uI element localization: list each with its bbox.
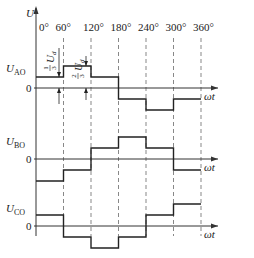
svg-text:Ud: Ud [44,51,58,63]
svg-text:2: 2 [70,74,78,78]
waveform-label-bo: UBO [6,135,25,150]
angle-tick-label: 360° [193,21,214,33]
svg-text:1: 1 [42,66,50,70]
angle-tick-label: 0° [39,21,49,33]
arrow-head-icon [57,88,61,93]
amplitude-annotations: 13Ud23Ud [42,48,88,104]
angle-tick-label: 240° [138,21,159,33]
svg-text:3: 3 [50,66,58,70]
omega-t-label: ωt [204,161,216,173]
vertical-axis-arrow-icon [34,6,39,14]
one-third-ud-label: 13Ud [42,51,58,71]
labels: U 0°60°120°180°240°300°360°0ωt0ωt0ωtUAOU… [6,7,216,240]
arrow-head-icon [57,72,61,77]
two-thirds-ud-label: 23Ud [70,59,86,79]
omega-t-label: ωt [204,90,216,102]
angle-tick-label: 180° [111,21,132,33]
angle-tick-label: 120° [83,21,104,33]
svg-text:3: 3 [78,74,86,78]
angle-tick-label: 60° [56,21,71,33]
omega-t-label: ωt [204,228,216,240]
zero-label: 0 [26,153,32,165]
zero-label: 0 [26,220,32,232]
waveform-label-ao: UAO [6,62,26,77]
svg-text:Ud: Ud [72,59,86,71]
waveform-label-co: UCO [6,202,25,217]
vertical-axis-label: U [26,7,35,19]
zero-label: 0 [26,82,32,94]
three-phase-voltage-waveform-diagram: U 0°60°120°180°240°300°360°0ωt0ωt0ωtUAOU… [0,0,254,258]
angle-tick-label: 300° [166,21,187,33]
axes [34,6,219,236]
arrow-head-icon [84,88,88,93]
